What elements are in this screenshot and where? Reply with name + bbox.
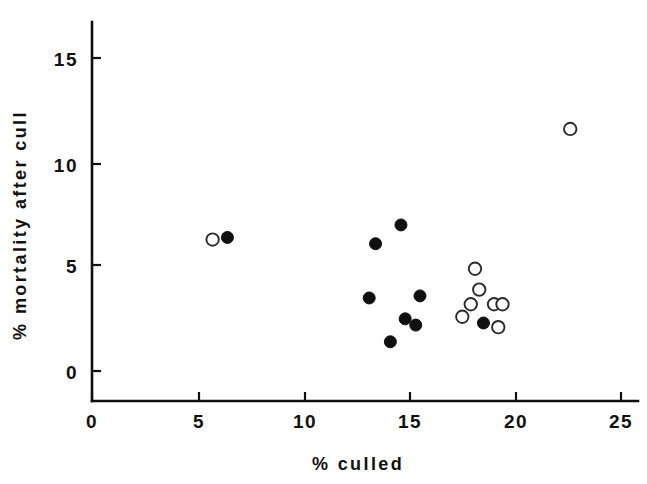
data-point-open-3 bbox=[473, 283, 485, 295]
series-filled bbox=[221, 219, 489, 348]
x-tick-label-20: 20 bbox=[504, 411, 528, 432]
data-point-open-1 bbox=[564, 123, 576, 135]
y-tick-label-0: 0 bbox=[66, 362, 78, 383]
x-axis-ticks bbox=[92, 392, 621, 401]
data-points-layer bbox=[206, 123, 576, 348]
data-point-filled-3 bbox=[363, 292, 375, 304]
y-axis-title: % mortality after cull bbox=[10, 110, 30, 340]
data-point-filled-7 bbox=[384, 336, 396, 348]
data-point-filled-5 bbox=[399, 313, 411, 325]
data-point-open-2 bbox=[469, 263, 481, 275]
series-open bbox=[206, 123, 576, 334]
x-tick-label-0: 0 bbox=[86, 411, 98, 432]
data-point-filled-2 bbox=[370, 238, 382, 250]
data-point-open-7 bbox=[456, 311, 468, 323]
y-tick-label-10: 10 bbox=[54, 155, 78, 176]
data-point-open-8 bbox=[492, 321, 504, 333]
scatter-plot-figure: 15 10 5 0 0 5 10 15 20 25 % culled % mor… bbox=[0, 0, 647, 484]
data-point-open-6 bbox=[496, 298, 508, 310]
x-tick-label-10: 10 bbox=[293, 411, 317, 432]
x-axis-tick-labels: 0 5 10 15 20 25 bbox=[86, 411, 633, 432]
x-axis-title: % culled bbox=[312, 454, 404, 474]
y-axis-tick-labels: 15 10 5 0 bbox=[54, 49, 78, 383]
plot-canvas: 15 10 5 0 0 5 10 15 20 25 % culled % mor… bbox=[0, 0, 647, 484]
y-tick-label-5: 5 bbox=[66, 256, 78, 277]
data-point-filled-1 bbox=[395, 219, 407, 231]
data-point-open-4 bbox=[465, 298, 477, 310]
x-tick-label-15: 15 bbox=[398, 411, 422, 432]
data-point-filled-0 bbox=[221, 231, 233, 243]
data-point-open-0 bbox=[206, 233, 218, 245]
data-point-filled-4 bbox=[414, 290, 426, 302]
y-tick-label-15: 15 bbox=[54, 49, 78, 70]
x-tick-label-5: 5 bbox=[193, 411, 205, 432]
data-point-filled-8 bbox=[477, 317, 489, 329]
y-axis-ticks bbox=[92, 58, 101, 371]
x-tick-label-25: 25 bbox=[609, 411, 633, 432]
data-point-filled-6 bbox=[410, 319, 422, 331]
axis-lines bbox=[92, 22, 638, 401]
